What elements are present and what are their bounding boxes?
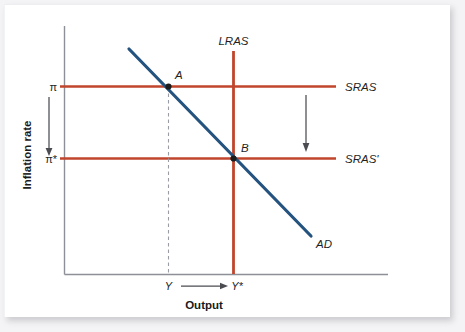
output-shift-arrow xyxy=(181,283,228,289)
y-tick-label-pi: π xyxy=(49,81,57,93)
figure-root: A B SRAS SRAS' LRAS AD π π* Y Y* xyxy=(0,0,465,332)
inflation-shift-arrow xyxy=(46,97,53,156)
ad-line xyxy=(129,49,311,236)
y-axis-title: Inflation rate xyxy=(21,120,33,189)
x-tick-label-y-star: Y* xyxy=(231,280,243,292)
x-axis-title: Output xyxy=(185,299,223,311)
sras-shift-arrow xyxy=(303,95,310,152)
curve-label-sras: SRAS xyxy=(345,81,377,93)
x-tick-label-y: Y xyxy=(165,280,173,292)
figure-card: A B SRAS SRAS' LRAS AD π π* Y Y* xyxy=(4,4,450,317)
equilibrium-dot-b xyxy=(230,155,236,161)
y-tick-label-pi-star: π* xyxy=(45,153,58,165)
point-label-a: A xyxy=(174,69,183,81)
equilibrium-dot-a xyxy=(165,83,171,89)
point-label-b: B xyxy=(241,142,249,154)
curve-label-ad: AD xyxy=(315,238,332,250)
curve-label-sras-prime: SRAS' xyxy=(345,153,379,165)
as-ad-chart: A B SRAS SRAS' LRAS AD π π* Y Y* xyxy=(5,5,450,317)
curve-label-lras: LRAS xyxy=(218,35,248,47)
ad-curve-group xyxy=(129,49,311,236)
